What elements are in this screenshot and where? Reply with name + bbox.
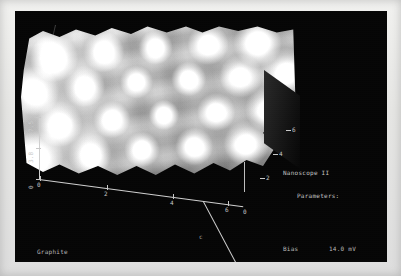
x-tick-label-6: 6 [225,207,229,213]
caption-sample-name: Graphite [37,248,269,256]
y-tick-mark [260,178,265,179]
copyright-mark: c [199,233,203,241]
y-tick-label-2: 2 [266,175,270,181]
z-tick-mark [36,148,41,149]
parameters-spacer [283,215,383,222]
z-tick-mark [36,117,41,118]
x-tick-label-0: 0 [37,182,41,188]
y-tick-label-6: 6 [292,127,296,133]
parameters-panel: Nanoscope II Parameters: Bias 14.0 mV Se… [283,154,383,262]
y-tick-label-0: 0 [243,209,247,215]
stm-plot-canvas: 7.5 3.8 0 0 2 4 6 0 2 4 6 Nanoscope II P… [15,11,387,262]
x-tick-label-2: 2 [104,191,108,197]
caption-block: Graphite Captured Tue Aug 25 15:15:30 19… [37,233,269,262]
z-tick-label-zero: 0 [28,185,34,189]
param-value-bias: 14.0 mV [329,245,383,253]
surface-mesh [21,25,296,175]
z-tick-label-top: 7.5 [28,121,34,132]
parameters-title: Nanoscope II [283,169,383,177]
screenshot-root: 7.5 3.8 0 0 2 4 6 0 2 4 6 Nanoscope II P… [0,0,401,276]
y-axis-riser-line [244,162,245,192]
y-tick-mark [273,154,278,155]
z-tick-label-mid: 3.8 [28,152,34,163]
x-tick-label-4: 4 [170,200,174,206]
param-key-bias: Bias [283,245,329,253]
y-tick-mark [286,130,291,131]
surface-topography [21,25,296,175]
param-row-bias: Bias 14.0 mV [283,245,383,253]
parameters-subtitle: Parameters: [283,192,383,200]
